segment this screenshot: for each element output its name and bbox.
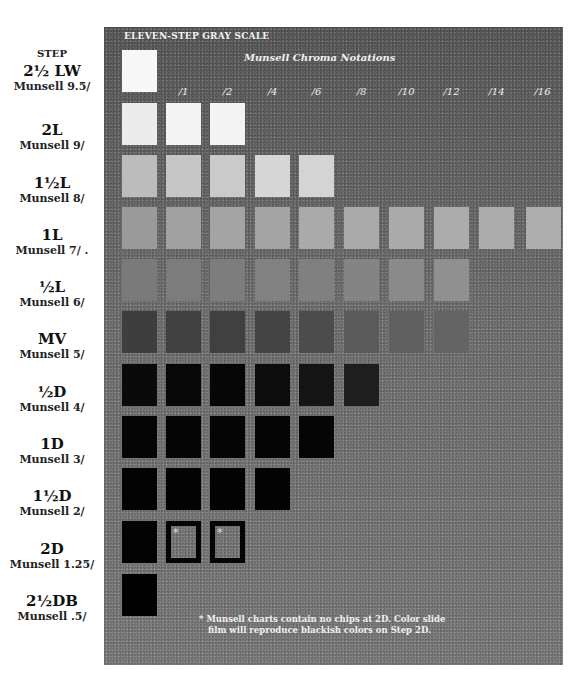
row-label: 2D Munsell 1.25/ [0,541,104,571]
step-code: 2L [0,122,104,139]
color-chip [210,416,245,458]
step-code: ½L [0,279,104,296]
munsell-value: Munsell 2/ [0,505,104,518]
step-labels-column: STEP 2½ LW Munsell 9.5/ 2L Munsell 9/ 1½… [0,0,104,674]
color-chip [344,364,379,406]
step-code: 1L [0,227,104,244]
munsell-value: Munsell 9.5/ [0,80,104,93]
color-chip [299,416,334,458]
step-code: ½D [0,384,104,401]
row-label: ½D Munsell 4/ [0,384,104,414]
footnote-line-2: film will reproduce blackish colors on S… [199,625,479,636]
chart-subtitle: Munsell Chroma Notations [244,52,395,63]
color-chip [122,259,157,301]
color-chip [210,311,245,353]
color-chip [434,311,469,353]
color-chip [344,207,379,249]
color-chip [210,103,245,145]
color-chip [166,103,201,145]
row-label: 2½DB Munsell .5/ [0,593,104,623]
color-chip [344,311,379,353]
row-label: 2L Munsell 9/ [0,122,104,152]
color-chip [122,207,157,249]
color-chip [255,207,290,249]
color-chip [166,259,201,301]
column-label: /16 [525,86,560,97]
step-code: 1D [0,436,104,453]
step-code: 1½L [0,175,104,192]
row-label: MV Munsell 5/ [0,331,104,361]
color-chip [166,364,201,406]
color-chip [122,521,157,563]
step-code: 1½D [0,488,104,505]
row-label: 1½L Munsell 8/ [0,175,104,205]
footnote: * Munsell charts contain no chips at 2D.… [199,614,479,636]
color-chip [122,468,157,510]
column-label: /4 [255,86,290,97]
row-label: 2½ LW Munsell 9.5/ [0,63,104,93]
color-chip [122,103,157,145]
asterisk-marker: * [173,527,179,538]
step-code: MV [0,331,104,348]
color-chip [166,155,201,197]
color-chip [210,364,245,406]
footnote-line-1: * Munsell charts contain no chips at 2D.… [199,614,445,624]
color-chip [389,311,424,353]
column-label: /14 [479,86,514,97]
color-chip [210,259,245,301]
color-chip [255,364,290,406]
color-chip [166,311,201,353]
gray-scale-panel: ELEVEN-STEP GRAY SCALE Munsell Chroma No… [104,27,563,665]
color-chip [166,468,201,510]
missing-chip-frame: * [210,521,245,563]
color-chip [299,311,334,353]
color-chip [299,364,334,406]
color-chip [434,259,469,301]
munsell-value: Munsell 8/ [0,192,104,205]
step-header: STEP [0,48,104,59]
color-chip [122,364,157,406]
color-chip [389,207,424,249]
color-chip [166,207,201,249]
column-label: /1 [166,86,201,97]
step-code: 2½DB [0,593,104,610]
column-label: /8 [344,86,379,97]
color-chip [122,50,157,92]
column-label: /12 [434,86,469,97]
column-label: /10 [389,86,424,97]
munsell-value: Munsell 4/ [0,401,104,414]
color-chip [299,207,334,249]
color-chip [255,155,290,197]
munsell-value: Munsell 3/ [0,453,104,466]
row-label: 1L Munsell 7/ . [0,227,104,257]
color-chip [255,259,290,301]
color-chip [344,259,379,301]
munsell-value: Munsell 5/ [0,348,104,361]
color-chip [122,574,157,616]
color-chip [166,416,201,458]
missing-chip-frame: * [166,521,201,563]
asterisk-marker: * [217,527,223,538]
munsell-value: Munsell 7/ . [0,244,104,257]
column-label: /6 [299,86,334,97]
color-chip [210,155,245,197]
column-label: /2 [210,86,245,97]
row-label: 1½D Munsell 2/ [0,488,104,518]
color-chip [122,311,157,353]
munsell-value: Munsell .5/ [0,610,104,623]
color-chip [122,155,157,197]
munsell-value: Munsell 9/ [0,139,104,152]
color-chip [526,207,561,249]
chart-title: ELEVEN-STEP GRAY SCALE [124,31,269,41]
color-chip [434,207,469,249]
color-chip [255,416,290,458]
row-label: 1D Munsell 3/ [0,436,104,466]
color-chip [479,207,514,249]
color-chip [299,155,334,197]
color-chip [389,259,424,301]
color-chip [255,468,290,510]
munsell-value: Munsell 1.25/ [0,558,104,571]
step-code: 2½ LW [0,63,104,80]
color-chip [210,207,245,249]
row-label: ½L Munsell 6/ [0,279,104,309]
